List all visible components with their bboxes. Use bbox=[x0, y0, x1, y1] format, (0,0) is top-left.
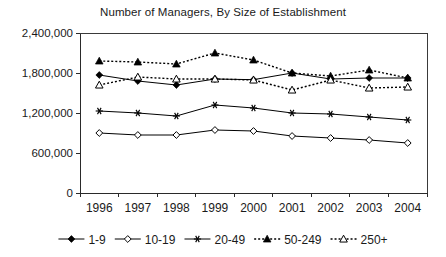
y-tick-label: 1,200,000 bbox=[22, 107, 73, 119]
data-point-marker bbox=[173, 60, 181, 67]
series-20-49 bbox=[96, 102, 412, 123]
data-point-marker bbox=[250, 105, 257, 111]
x-tick-label: 1996 bbox=[86, 201, 113, 215]
data-point-marker bbox=[263, 235, 271, 242]
legend-item-50-249[interactable]: 50-249 bbox=[254, 233, 322, 247]
legend-item-1-9[interactable]: 1-9 bbox=[58, 233, 106, 247]
x-tick-label: 2003 bbox=[356, 201, 383, 215]
data-point-marker bbox=[365, 66, 373, 73]
data-point-marker bbox=[404, 117, 411, 123]
data-point-marker bbox=[95, 57, 103, 64]
data-point-marker bbox=[366, 137, 373, 144]
legend-label: 20-49 bbox=[214, 233, 245, 247]
data-point-marker bbox=[250, 128, 257, 135]
data-point-marker bbox=[289, 133, 296, 140]
legend-label: 250+ bbox=[361, 233, 388, 247]
x-tick-label: 1997 bbox=[124, 201, 151, 215]
data-point-marker bbox=[288, 110, 295, 116]
x-axis: 199619971998199920002001200220032004 bbox=[80, 193, 427, 215]
legend-label: 50-249 bbox=[284, 233, 322, 247]
data-point-marker bbox=[212, 127, 219, 134]
legend-label: 1-9 bbox=[88, 233, 106, 247]
data-point-marker bbox=[134, 73, 142, 80]
data-point-marker bbox=[194, 236, 201, 242]
x-tick-label: 2001 bbox=[279, 201, 306, 215]
data-point-marker bbox=[173, 132, 180, 139]
chart-legend: 1-910-1920-4950-249250+ bbox=[58, 233, 387, 247]
series-container bbox=[95, 49, 411, 146]
data-point-marker bbox=[96, 72, 103, 79]
data-point-marker bbox=[211, 102, 218, 108]
data-point-marker bbox=[134, 132, 141, 139]
data-point-marker bbox=[96, 130, 103, 137]
data-point-marker bbox=[124, 236, 131, 243]
x-tick-label: 2002 bbox=[317, 201, 344, 215]
x-tick-label: 2000 bbox=[240, 201, 267, 215]
y-tick-label: 1,800,000 bbox=[22, 67, 73, 79]
data-point-marker bbox=[211, 49, 219, 56]
series-250plus bbox=[95, 73, 411, 93]
data-point-marker bbox=[96, 108, 103, 114]
data-point-marker bbox=[327, 135, 334, 142]
legend-label: 10-19 bbox=[145, 233, 176, 247]
data-point-marker bbox=[134, 110, 141, 116]
series-10-19 bbox=[96, 127, 411, 147]
data-point-marker bbox=[173, 82, 180, 89]
y-tick-label: 2,400,000 bbox=[22, 27, 73, 39]
x-tick-label: 1999 bbox=[202, 201, 229, 215]
y-tick-label: 600,000 bbox=[31, 147, 73, 159]
y-axis: 0600,0001,200,0001,800,0002,400,000 bbox=[22, 27, 80, 199]
data-point-marker bbox=[95, 81, 103, 88]
data-point-marker bbox=[327, 111, 334, 117]
data-point-marker bbox=[340, 235, 348, 242]
legend-item-10-19[interactable]: 10-19 bbox=[115, 233, 176, 247]
data-point-marker bbox=[366, 75, 373, 82]
data-point-marker bbox=[404, 140, 411, 147]
legend-item-20-49[interactable]: 20-49 bbox=[184, 233, 245, 247]
data-point-marker bbox=[173, 113, 180, 119]
y-tick-label: 0 bbox=[67, 187, 73, 199]
line-chart-plot: 0600,0001,200,0001,800,0002,400,000 1996… bbox=[0, 0, 446, 257]
data-point-marker bbox=[404, 83, 412, 90]
x-tick-label: 1998 bbox=[163, 201, 190, 215]
chart-figure: Number of Managers, By Size of Establish… bbox=[0, 0, 446, 257]
legend-item-250plus[interactable]: 250+ bbox=[331, 233, 388, 247]
data-point-marker bbox=[68, 236, 75, 243]
x-tick-label: 2004 bbox=[394, 201, 421, 215]
data-point-marker bbox=[366, 114, 373, 120]
